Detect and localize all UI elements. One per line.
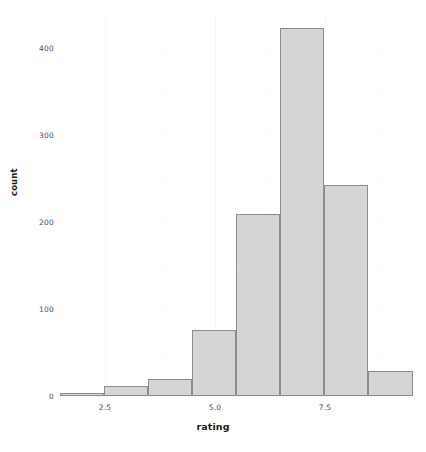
histogram-bar [60, 393, 104, 396]
plot-panel [60, 12, 413, 396]
histogram-plot: 0 100 200 300 400 2.5 5.0 7.5 rating cou… [0, 0, 426, 452]
histogram-bar [368, 371, 413, 396]
y-tick-label-400: 400 [14, 45, 54, 53]
y-tick-label-200: 200 [14, 219, 54, 227]
x-tick-label-2p5: 2.5 [99, 404, 112, 412]
x-tick-label-7p5: 7.5 [319, 404, 332, 412]
x-tick-label-5p0: 5.0 [209, 404, 222, 412]
x-axis-title: rating [0, 421, 426, 432]
histogram-bar [324, 185, 368, 396]
y-tick-label-300: 300 [14, 132, 54, 140]
histogram-bar [236, 214, 280, 396]
histogram-bar [104, 386, 148, 396]
y-axis-title: count [9, 168, 19, 196]
gridline-x-2p5 [105, 12, 106, 396]
y-tick-label-0: 0 [14, 393, 54, 401]
gridline-y-minor-350 [60, 91, 413, 92]
gridline-x-minor-8p75 [380, 12, 381, 396]
gridline-y-minor-250 [60, 178, 413, 179]
gridline-y-400 [60, 48, 413, 49]
histogram-bar [192, 330, 236, 396]
gridline-y-300 [60, 135, 413, 136]
gridline-x-minor-3p75 [160, 12, 161, 396]
gridline-y-0 [60, 396, 413, 397]
histogram-bar [148, 379, 192, 396]
y-tick-label-100: 100 [14, 306, 54, 314]
histogram-bar [280, 28, 324, 396]
